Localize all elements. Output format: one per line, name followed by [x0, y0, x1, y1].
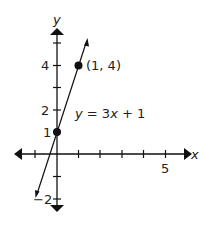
x-tick-label-5: 5	[161, 161, 169, 176]
equation-mid: = 3	[83, 106, 110, 121]
y-tick-label-neg2: −2	[33, 192, 52, 207]
point-label-1-4: (1, 4)	[86, 58, 121, 73]
y-axis-label: y	[52, 12, 61, 27]
line-top-arrow-icon	[84, 38, 89, 47]
equation-y: y	[74, 106, 83, 121]
y-tick-label-2: 2	[41, 103, 49, 118]
point-1-4	[75, 62, 83, 70]
x-axis-left-arrow-icon	[14, 148, 22, 160]
equation-tail: + 1	[118, 106, 145, 121]
y-tick-label-1: 1	[43, 125, 51, 140]
graph-figure: y x 5 4 2 1 −2 (1, 4) y = 3x + 1	[0, 0, 206, 229]
point-0-1	[53, 128, 61, 136]
y-axis-top-arrow-icon	[50, 28, 64, 35]
equation-x: x	[109, 106, 118, 121]
y-tick-label-4: 4	[41, 58, 49, 73]
x-axis-label: x	[190, 147, 199, 162]
coordinate-plane: y x 5 4 2 1 −2 (1, 4) y = 3x + 1	[0, 0, 206, 229]
equation-label: y = 3x + 1	[74, 106, 145, 121]
